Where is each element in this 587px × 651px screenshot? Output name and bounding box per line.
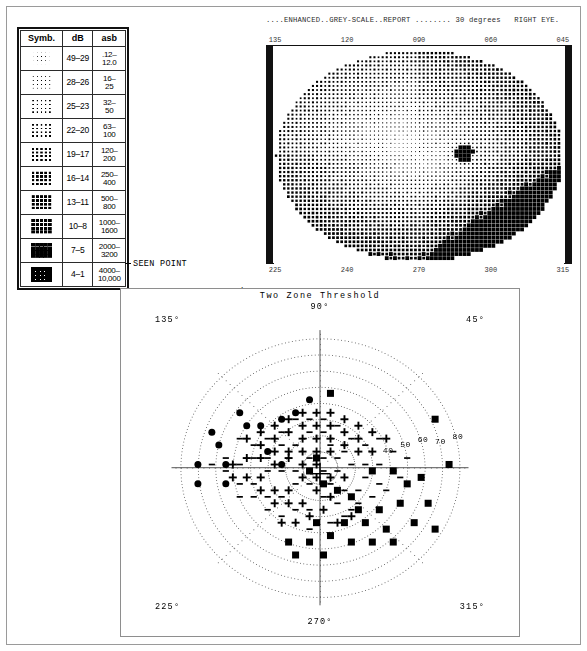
angle-label-90: 90° (121, 302, 519, 312)
legend-row: 4–14000–10,000 (21, 263, 126, 287)
legend-symbol-swatch (21, 263, 63, 287)
angle-label-270: 270° (121, 617, 519, 627)
greyscale-plot-frame (266, 45, 572, 264)
legend-header-db: dB (63, 31, 93, 47)
legend-header-asb: asb (93, 31, 126, 47)
legend-db-value: 16–14 (63, 167, 93, 191)
legend-db-value: 25–23 (63, 95, 93, 119)
angle-label-135: 135° (155, 315, 180, 325)
legend-symbol-swatch (21, 191, 63, 215)
legend-symbol-swatch (21, 215, 63, 239)
angle-label-225: 225° (155, 602, 180, 612)
greyscale-axis-bottom: 225240270300315 (266, 266, 572, 276)
legend-db-value: 28–26 (63, 71, 93, 95)
radial-label-60: 60 (418, 435, 429, 444)
legend-asb-value: 4000–10,000 (93, 263, 126, 287)
key-label-seen: SEEN POINT (133, 259, 187, 269)
greyscale-axis-top-tick: 135 (269, 36, 282, 44)
key-row-seen: SEEN POINT (125, 260, 246, 269)
greyscale-legend-table: Symb. dB asb 49–29.12–12.028–2616–2525–2… (20, 30, 126, 287)
legend-asb-value: .12–12.0 (93, 47, 126, 71)
greyscale-legend-panel: Symb. dB asb 49–29.12–12.028–2616–2525–2… (17, 27, 129, 290)
legend-symbol-swatch (21, 95, 63, 119)
legend-db-value: 13–11 (63, 191, 93, 215)
legend-header-symbol: Symb. (21, 31, 63, 47)
radial-label-70: 70 (435, 437, 446, 446)
legend-asb-value: 120–200 (93, 143, 126, 167)
legend-symbol-swatch (21, 167, 63, 191)
legend-symbol-swatch (21, 239, 63, 263)
greyscale-axis-bottom-tick: 240 (341, 266, 354, 274)
legend-row: 13–11500–800 (21, 191, 126, 215)
legend-db-value: 4–1 (63, 263, 93, 287)
legend-asb-value: 16–25 (93, 71, 126, 95)
legend-header-row: Symb. dB asb (21, 31, 126, 47)
legend-row: 28–2616–25 (21, 71, 126, 95)
greyscale-axis-top-tick: 120 (341, 36, 354, 44)
legend-asb-value: 63–100 (93, 119, 126, 143)
greyscale-axis-bottom-tick: 225 (269, 266, 282, 274)
greyscale-report-header: ....ENHANCED..GREY-SCALE..REPORT .......… (266, 16, 572, 24)
polar-plot-canvas (121, 289, 519, 636)
radial-label-40: 40 (383, 446, 394, 455)
legend-row: 19–17120–200 (21, 143, 126, 167)
angle-label-315: 315° (460, 602, 485, 612)
legend-row: 16–14250–400 (21, 167, 126, 191)
legend-symbol-swatch (21, 71, 63, 95)
legend-db-value: 49–29 (63, 47, 93, 71)
greyscale-axis-top-tick: 045 (557, 36, 570, 44)
legend-asb-value: 1000–1600 (93, 215, 126, 239)
legend-asb-value: 32–50 (93, 95, 126, 119)
legend-asb-value: 500–800 (93, 191, 126, 215)
greyscale-report-panel: ....ENHANCED..GREY-SCALE..REPORT .......… (266, 16, 572, 278)
legend-db-value: 10–8 (63, 215, 93, 239)
greyscale-axis-bottom-tick: 315 (557, 266, 570, 274)
legend-row: 7–52000–3200 (21, 239, 126, 263)
greyscale-axis-top-tick: 090 (413, 36, 426, 44)
greyscale-axis-top-tick: 060 (485, 36, 498, 44)
legend-row: 22–2063–100 (21, 119, 126, 143)
greyscale-map (274, 47, 564, 264)
legend-row: 10–81000–1600 (21, 215, 126, 239)
dash-icon (125, 260, 133, 269)
legend-asb-value: 2000–3200 (93, 239, 126, 263)
legend-row: 25–2332–50 (21, 95, 126, 119)
legend-db-value: 22–20 (63, 119, 93, 143)
greyscale-axis-bottom-tick: 270 (413, 266, 426, 274)
legend-symbol-swatch (21, 47, 63, 71)
legend-row: 49–29.12–12.0 (21, 47, 126, 71)
radial-label-50: 50 (400, 440, 411, 449)
legend-symbol-swatch (21, 143, 63, 167)
legend-asb-value: 250–400 (93, 167, 126, 191)
angle-label-45: 45° (466, 315, 485, 325)
greyscale-axis-bottom-tick: 300 (485, 266, 498, 274)
two-zone-threshold-panel: Two Zone Threshold 90° 135° 45° 225° 315… (120, 288, 520, 637)
legend-db-value: 19–17 (63, 143, 93, 167)
legend-symbol-swatch (21, 119, 63, 143)
legend-db-value: 7–5 (63, 239, 93, 263)
radial-label-80: 80 (453, 432, 464, 441)
